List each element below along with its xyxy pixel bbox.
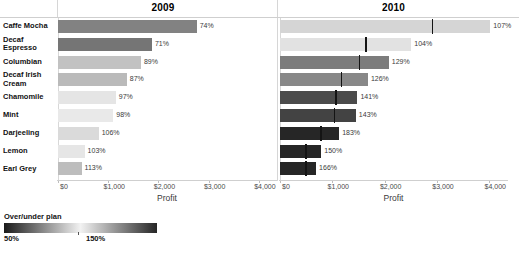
reference-line [305, 161, 306, 176]
reference-line [432, 19, 433, 34]
bar-value-label: 87% [130, 75, 144, 82]
bar-row[interactable]: 113% [58, 162, 274, 175]
x-axis-tick-mark [58, 181, 59, 183]
bar-row[interactable]: 71% [58, 38, 274, 51]
panel-divider [277, 18, 278, 181]
x-axis-2009: Profit $0$1,000$2,000$3,000$4,000 [57, 181, 277, 205]
bar-row[interactable]: 87% [58, 73, 274, 86]
bar-row[interactable]: 103% [58, 145, 274, 158]
legend-max-label: 150% [86, 234, 105, 243]
legend-tick [78, 232, 79, 235]
row-label: Mint [3, 111, 55, 120]
x-axis-tick-label: $4,000 [485, 183, 506, 190]
bar[interactable] [280, 109, 356, 122]
bar-row[interactable]: 183% [280, 127, 505, 140]
legend-title: Over/under plan [4, 212, 184, 221]
bar-row[interactable]: 166% [280, 162, 505, 175]
bar-value-label: 104% [414, 40, 432, 47]
bar[interactable] [280, 162, 316, 175]
bar-row[interactable]: 97% [58, 91, 274, 104]
x-axis-2010: Profit $0$1,000$2,000$3,000$4,000 [279, 181, 508, 205]
x-axis-title-2010: Profit [279, 193, 508, 203]
reference-line [341, 72, 342, 87]
bar[interactable] [280, 38, 411, 51]
reference-line [334, 108, 335, 123]
reference-line [335, 90, 336, 105]
bar[interactable] [58, 145, 85, 158]
reference-line [320, 126, 321, 141]
bar-row[interactable]: 106% [58, 127, 274, 140]
x-axis-tick-label: $1,000 [104, 183, 125, 190]
bar-value-label: 143% [359, 111, 377, 118]
x-axis-tick-label: $2,000 [154, 183, 175, 190]
bar-value-label: 141% [360, 93, 378, 100]
x-axis-tick-label: $2,000 [380, 183, 401, 190]
bar-value-label: 166% [319, 164, 337, 171]
bar-row[interactable]: 141% [280, 91, 505, 104]
bar[interactable] [58, 109, 113, 122]
panel-header-row: 2009 2010 [0, 0, 519, 18]
bar[interactable] [58, 73, 127, 86]
bar-row[interactable]: 107% [280, 20, 505, 33]
bar-value-label: 103% [88, 147, 106, 154]
row-label: Darjeeling [3, 129, 55, 138]
x-axis-tick-label: $4,000 [254, 183, 275, 190]
x-axis-tick-label: $3,000 [204, 183, 225, 190]
panel-title-2009: 2009 [57, 2, 269, 13]
bar[interactable] [58, 162, 82, 175]
bar[interactable] [58, 38, 152, 51]
bar-value-label: 183% [342, 129, 360, 136]
row-label: Columbian [3, 58, 55, 67]
legend-scale: 50% 150% [4, 234, 157, 245]
row-label: Decaf Irish Cream [3, 71, 55, 88]
bar[interactable] [280, 20, 490, 33]
bar-row[interactable]: 150% [280, 145, 505, 158]
legend: Over/under plan 50% 150% [4, 212, 184, 245]
bar-row[interactable]: 89% [58, 56, 274, 69]
bar-value-label: 98% [116, 111, 130, 118]
bar-value-label: 107% [493, 22, 511, 29]
bar[interactable] [280, 91, 357, 104]
panel-title-2010: 2010 [279, 2, 508, 13]
bar-value-label: 106% [102, 129, 120, 136]
x-axis-tick-label: $1,000 [328, 183, 349, 190]
legend-color-ramp [4, 223, 157, 233]
bar-value-label: 129% [392, 58, 410, 65]
row-label: Earl Grey [3, 165, 55, 174]
bar-value-label: 89% [144, 58, 158, 65]
reference-line [305, 144, 306, 159]
x-axis-title-2009: Profit [57, 193, 277, 203]
bar[interactable] [58, 20, 197, 33]
row-label: Chamomile [3, 93, 55, 102]
bar[interactable] [58, 127, 99, 140]
bar[interactable] [280, 56, 389, 69]
bar-row[interactable]: 74% [58, 20, 274, 33]
bar-value-label: 150% [324, 147, 342, 154]
bar-value-label: 97% [119, 93, 133, 100]
bar-row[interactable]: 126% [280, 73, 505, 86]
x-axis-tick-label: $3,000 [432, 183, 453, 190]
reference-line [365, 37, 366, 52]
bar-row[interactable]: 129% [280, 56, 505, 69]
dashboard: 2009 2010 Caffe MochaDecaf EspressoColum… [0, 0, 519, 256]
x-axis-tick-mark [280, 181, 281, 183]
bar-row[interactable]: 143% [280, 109, 505, 122]
row-label: Caffe Mocha [3, 22, 55, 31]
bar[interactable] [280, 145, 321, 158]
chart-panel-2009: 74%71%89%87%97%98%106%103%113% [57, 18, 277, 181]
bar[interactable] [280, 127, 339, 140]
x-axis-tick-label: $0 [282, 183, 290, 190]
bar[interactable] [58, 56, 141, 69]
x-axis-tick-label: $0 [60, 183, 68, 190]
bar-row[interactable]: 104% [280, 38, 505, 51]
bar[interactable] [58, 91, 116, 104]
bar-value-label: 71% [155, 40, 169, 47]
bar-value-label: 126% [371, 75, 389, 82]
bar[interactable] [280, 73, 368, 86]
bar-row[interactable]: 98% [58, 109, 274, 122]
header-separator-middle [277, 0, 278, 18]
bar-value-label: 74% [200, 22, 214, 29]
row-label: Decaf Espresso [3, 36, 55, 53]
chart-panel-2010: 107%104%129%126%141%143%183%150%166% [279, 18, 508, 181]
bar-value-label: 113% [85, 164, 102, 171]
